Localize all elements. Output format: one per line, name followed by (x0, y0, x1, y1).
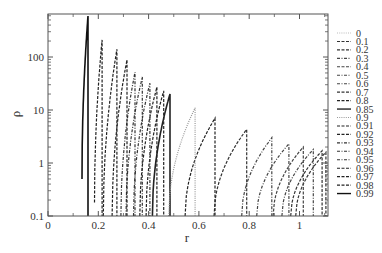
chart: 0.1110100 00.20.40.60.81 r ρ 00.10.20.30… (0, 0, 382, 253)
series-line-0_8 (185, 118, 215, 216)
x-tick-label: 0 (45, 219, 51, 231)
x-tick-label: 0.6 (192, 219, 206, 231)
y-axis-ticks: 0.1110100 (28, 16, 329, 222)
series-line-0_3 (282, 150, 313, 217)
series-line-0_98 (95, 40, 103, 216)
series-line-0_1 (296, 152, 326, 216)
legend-item: 0.99 (337, 188, 374, 199)
series-line-0_2 (291, 151, 322, 216)
series-line-0 (330, 159, 335, 216)
series-line-0_91 (146, 91, 164, 216)
series-line-0_5 (257, 144, 289, 216)
x-axis-ticks: 00.20.40.60.81 (45, 14, 324, 231)
y-tick-label: 10 (33, 104, 45, 116)
x-tick-label: 1 (297, 219, 303, 231)
y-tick-label: 100 (28, 51, 45, 63)
x-tick-label: 0.2 (91, 219, 105, 231)
x-tick-label: 0.8 (242, 219, 256, 231)
plot-frame (48, 14, 328, 216)
series-line-0_95 (121, 72, 135, 216)
series-line-0_97 (103, 49, 117, 216)
x-tick-label: 0.4 (142, 219, 156, 231)
legend: 00.10.20.30.40.50.60.70.80.850.90.910.92… (337, 28, 374, 200)
y-tick-label: 1 (39, 157, 45, 169)
series-line-0_7 (214, 129, 247, 216)
series-line-0_85 (152, 94, 170, 216)
series-line-0_9 (169, 108, 195, 216)
x-axis-label: r (185, 230, 190, 245)
plot-area (82, 16, 335, 216)
y-tick-label: 0.1 (30, 210, 44, 222)
series-line-0_99 (82, 16, 88, 216)
legend-label: 0.99 (356, 188, 374, 199)
y-axis-label: ρ (8, 111, 23, 118)
